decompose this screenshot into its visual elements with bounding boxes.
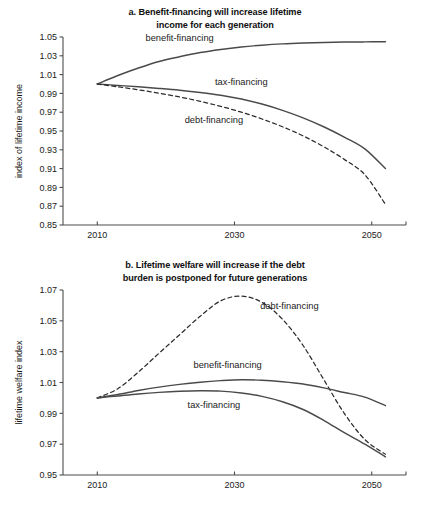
y-tick-label: 1.03 <box>39 51 57 61</box>
y-tick-label: 1.01 <box>39 378 57 388</box>
y-tick-label: 0.99 <box>39 409 57 419</box>
y-tick-label: 1.01 <box>39 70 57 80</box>
chart-panel-a: a. Benefit-financing will increase lifet… <box>0 0 430 260</box>
x-tick-label: 2030 <box>224 230 244 240</box>
x-tick-label: 2050 <box>362 480 382 490</box>
series-line-debt-financing <box>97 296 385 454</box>
y-tick-label: 0.91 <box>39 164 57 174</box>
series-annotation-debt-financing: debt-financing <box>260 301 318 311</box>
series-line-tax-financing <box>97 84 385 169</box>
y-tick-label: 1.07 <box>39 285 57 295</box>
panel-a-title-line2: income for each generation <box>156 20 273 30</box>
x-tick-label: 2050 <box>362 230 382 240</box>
series-line-debt-financing <box>97 84 385 204</box>
y-tick-label: 0.99 <box>39 89 57 99</box>
series-annotation-tax-financing: tax-financing <box>215 77 268 87</box>
panel-b-title-line2: burden is postponed for future generatio… <box>123 273 308 283</box>
panel-b-title: b. Lifetime welfare will increase if the… <box>0 255 430 284</box>
y-tick-label: 0.93 <box>39 145 57 155</box>
panel-b-plot-area: 0.950.970.991.011.031.051.07201020302050… <box>0 284 430 508</box>
y-tick-label: 1.05 <box>39 32 57 42</box>
y-tick-label: 0.95 <box>39 470 57 480</box>
x-tick-label: 2010 <box>87 480 107 490</box>
panel-a-svg: 0.850.870.890.910.930.950.970.991.011.03… <box>0 31 430 251</box>
y-axis-title: lifetime welfare index <box>14 340 24 425</box>
series-annotation-benefit-financing: benefit-financing <box>146 33 214 43</box>
panel-a-plot-area: 0.850.870.890.910.930.950.970.991.011.03… <box>0 31 430 251</box>
panel-a-title: a. Benefit-financing will increase lifet… <box>0 0 430 31</box>
y-tick-label: 0.85 <box>39 220 57 230</box>
series-annotation-debt-financing: debt-financing <box>185 115 243 125</box>
y-tick-label: 0.87 <box>39 201 57 211</box>
y-tick-label: 0.97 <box>39 107 57 117</box>
y-tick-label: 0.95 <box>39 126 57 136</box>
x-tick-label: 2030 <box>224 480 244 490</box>
series-line-tax-financing <box>97 391 385 457</box>
x-tick-label: 2010 <box>87 230 107 240</box>
chart-panel-b: b. Lifetime welfare will increase if the… <box>0 255 430 519</box>
series-annotation-benefit-financing: benefit-financing <box>194 360 262 370</box>
panel-b-title-line1: b. Lifetime welfare will increase if the… <box>125 260 304 270</box>
y-axis-title: index of lifetime income <box>14 84 24 178</box>
panel-a-title-line1: a. Benefit-financing will increase lifet… <box>129 7 302 17</box>
y-tick-label: 1.03 <box>39 347 57 357</box>
y-tick-label: 0.97 <box>39 439 57 449</box>
y-tick-label: 0.89 <box>39 183 57 193</box>
y-tick-label: 1.05 <box>39 316 57 326</box>
panel-b-svg: 0.950.970.991.011.031.051.07201020302050… <box>0 284 430 508</box>
series-annotation-tax-financing: tax-financing <box>188 400 241 410</box>
